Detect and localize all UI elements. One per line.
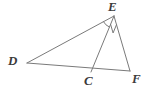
angle-square-CEF [111, 24, 117, 33]
geometry-figure: D E C F [0, 0, 151, 90]
segment-DF [27, 63, 130, 71]
vertex-label-e: E [108, 0, 117, 13]
vertex-label-f: F [132, 72, 141, 85]
segment-DE [27, 16, 114, 63]
vertex-label-d: D [8, 54, 17, 67]
vertex-label-c: C [84, 74, 93, 87]
angle-arc-DEC [103, 22, 109, 27]
geometry-canvas [0, 0, 151, 90]
